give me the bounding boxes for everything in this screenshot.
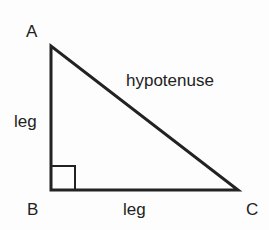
right-triangle-diagram: A B C leg leg hypotenuse <box>0 0 269 230</box>
vertex-label-c: C <box>246 200 258 219</box>
vertical-leg-label: leg <box>14 112 37 131</box>
right-angle-marker <box>51 166 75 190</box>
vertex-label-a: A <box>26 22 38 41</box>
hypotenuse-label: hypotenuse <box>126 71 214 90</box>
triangle-canvas: A B C leg leg hypotenuse <box>0 0 269 230</box>
vertex-label-b: B <box>27 200 38 219</box>
triangle-shape <box>51 46 238 190</box>
horizontal-leg-label: leg <box>123 200 146 219</box>
